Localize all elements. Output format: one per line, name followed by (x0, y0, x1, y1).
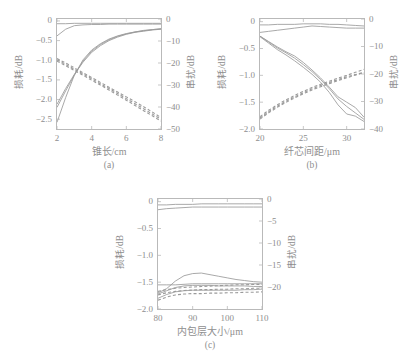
y2-tick-label: −30 (369, 97, 383, 106)
y2-tick-label: −30 (166, 81, 180, 90)
y-tick-label: −2.0 (119, 305, 153, 314)
y2-tick-label: −10 (369, 42, 383, 51)
plot-area-a (56, 18, 162, 130)
y2-axis-title-b: 串扰/dB (390, 44, 400, 100)
x-axis-title-b: 纤芯间距/μm (249, 143, 375, 158)
y-axis-title-b: 损耗/dB (218, 44, 228, 100)
x-tick-label: 25 (288, 134, 318, 143)
y-axis-title-c: 损耗/dB (116, 224, 126, 280)
x-tick-label: 30 (332, 134, 362, 143)
x-tick-label: 4 (77, 134, 107, 143)
y2-tick-label: −10 (166, 37, 180, 46)
subplot-a: 0−0.5−1.0−1.5−2.0−2.5 0−10−20−30−40−50 2… (0, 0, 203, 180)
x-axis-title-c: 内包层大小/μm (147, 323, 273, 338)
panel-caption-a: (a) (56, 160, 162, 170)
plot-area-c (157, 198, 263, 310)
curve-crosstalk-3 (57, 61, 161, 121)
y2-tick-label: −20 (267, 283, 281, 292)
x-tick-label: 80 (143, 314, 173, 323)
x-tick-label: 20 (245, 134, 275, 143)
x-tick-label: 90 (178, 314, 208, 323)
y2-axis-title-c: 串扰/dB (288, 224, 298, 280)
panel-caption-b: (b) (259, 160, 365, 170)
x-tick-label: 8 (146, 134, 176, 143)
subplot-b: 0−0.5−1.0−1.5−2.0 0−10−20−30−40 202530 损… (203, 0, 406, 180)
y2-tick-label: −20 (166, 59, 180, 68)
curve-loss-flat-1 (158, 204, 262, 205)
y-tick-label: 0 (18, 16, 52, 25)
curve-crosstalk-2 (260, 72, 364, 118)
x-axis-title-a: 锥长/cm (56, 143, 162, 158)
y2-tick-label: −40 (166, 103, 180, 112)
y2-tick-label: 0 (369, 15, 374, 24)
x-tick-label: 100 (212, 314, 242, 323)
curve-loss-fall-3 (260, 37, 364, 122)
y2-tick-label: −50 (166, 125, 180, 134)
y2-tick-label: −40 (369, 125, 383, 134)
y2-tick-label: −20 (369, 70, 383, 79)
subplot-c: 0−0.5−1.0−1.5−2.0 0−5−10−15−20 809010011… (101, 180, 304, 359)
y-tick-label: −2.5 (18, 115, 52, 124)
curve-loss-flat-2 (260, 26, 364, 32)
y-tick-label: 0 (119, 197, 153, 206)
y-tick-label: 0 (221, 17, 255, 26)
x-tick-label: 6 (111, 134, 141, 143)
y2-tick-label: 0 (267, 195, 272, 204)
curve-crosstalk-3 (260, 73, 364, 119)
curve-crosstalk-3 (158, 292, 262, 300)
y2-tick-label: −15 (267, 261, 281, 270)
curve-loss-flat-2 (158, 207, 262, 210)
x-tick-label: 2 (42, 134, 72, 143)
plot-area-b (259, 18, 365, 130)
panel-caption-c: (c) (157, 340, 263, 350)
y2-tick-label: −10 (267, 239, 281, 248)
figure-root: 0−0.5−1.0−1.5−2.0−2.5 0−10−20−30−40−50 2… (0, 0, 406, 359)
y2-tick-label: −5 (267, 217, 277, 226)
y2-tick-label: 0 (166, 15, 171, 24)
y-tick-label: −2.0 (221, 125, 255, 134)
y2-axis-title-a: 串扰/dB (187, 44, 197, 100)
x-tick-label: 110 (247, 314, 277, 323)
curve-crosstalk-1 (260, 69, 364, 116)
y-axis-title-a: 损耗/dB (15, 44, 25, 100)
